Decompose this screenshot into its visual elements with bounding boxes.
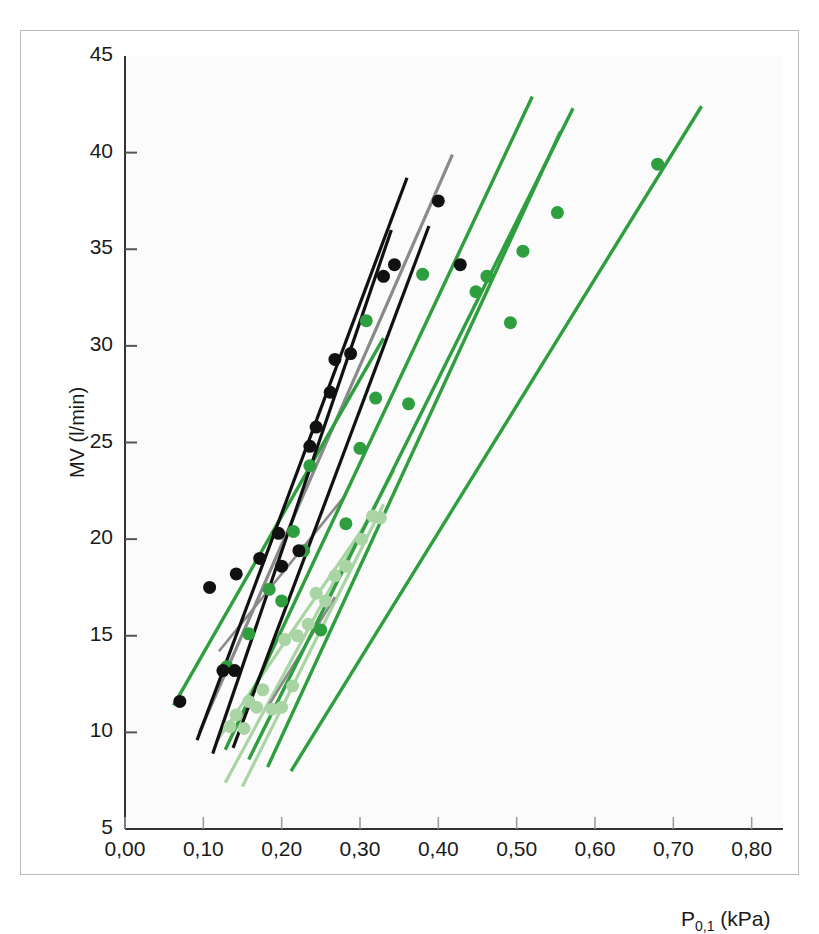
- data-point: [480, 270, 493, 283]
- data-point: [275, 594, 288, 607]
- data-point: [377, 270, 390, 283]
- data-point: [454, 258, 467, 271]
- y-tick-label: 5: [67, 815, 113, 839]
- data-point: [253, 552, 266, 565]
- data-point: [228, 664, 241, 677]
- x-tick-label: 0,00: [85, 837, 165, 861]
- data-point: [275, 701, 288, 714]
- data-point: [355, 533, 368, 546]
- x-tick-label: 0,50: [477, 837, 557, 861]
- data-point: [369, 392, 382, 405]
- data-point: [344, 347, 357, 360]
- data-point: [339, 517, 352, 530]
- x-tick-label: 0,10: [163, 837, 243, 861]
- data-point: [230, 708, 243, 721]
- data-point: [287, 525, 300, 538]
- data-point: [310, 421, 323, 434]
- data-point: [278, 633, 291, 646]
- data-point: [402, 397, 415, 410]
- data-point: [328, 569, 341, 582]
- y-tick-label: 45: [67, 42, 113, 66]
- data-point: [303, 459, 316, 472]
- y-tick-label: 15: [67, 622, 113, 646]
- x-tick-label: 0,60: [555, 837, 635, 861]
- data-point: [303, 440, 316, 453]
- y-tick-label: 40: [67, 139, 113, 163]
- plot-background: [125, 56, 783, 829]
- data-point: [263, 583, 276, 596]
- data-point: [360, 314, 373, 327]
- data-point: [291, 629, 304, 642]
- scatter-plot: [21, 31, 798, 874]
- data-point: [416, 268, 429, 281]
- y-tick-label: 35: [67, 235, 113, 259]
- x-tick-label: 0,70: [633, 837, 713, 861]
- data-point: [314, 623, 327, 636]
- data-point: [272, 527, 285, 540]
- data-point: [374, 511, 387, 524]
- x-tick-label: 0,20: [242, 837, 322, 861]
- data-point: [339, 560, 352, 573]
- data-point: [328, 353, 341, 366]
- data-point: [354, 442, 367, 455]
- x-axis-label-unit: (kPa): [714, 907, 770, 930]
- x-axis-label: P0,1 (kPa): [681, 907, 771, 934]
- data-point: [173, 695, 186, 708]
- data-point: [651, 158, 664, 171]
- data-point: [242, 627, 255, 640]
- data-point: [250, 701, 263, 714]
- data-point: [504, 316, 517, 329]
- data-point: [292, 544, 305, 557]
- data-point: [319, 594, 332, 607]
- data-point: [388, 258, 401, 271]
- x-axis-label-main: P: [681, 907, 695, 930]
- data-point: [551, 206, 564, 219]
- y-axis-label: MV (l/min): [66, 353, 89, 513]
- x-axis-label-sub: 0,1: [695, 918, 714, 934]
- data-point: [203, 581, 216, 594]
- data-point: [275, 560, 288, 573]
- chart-frame: 51015202530354045 0,000,100,200,300,400,…: [20, 30, 799, 875]
- data-point: [516, 245, 529, 258]
- data-point: [302, 618, 315, 631]
- x-tick-label: 0,80: [712, 837, 792, 861]
- y-tick-label: 10: [67, 718, 113, 742]
- data-point: [223, 720, 236, 733]
- data-point: [256, 683, 269, 696]
- data-point: [432, 194, 445, 207]
- data-point: [216, 664, 229, 677]
- data-point: [324, 386, 337, 399]
- data-point: [230, 567, 243, 580]
- data-point: [286, 679, 299, 692]
- y-tick-label: 20: [67, 525, 113, 549]
- x-tick-label: 0,30: [320, 837, 400, 861]
- data-point: [238, 722, 251, 735]
- data-point: [469, 285, 482, 298]
- x-tick-label: 0,40: [398, 837, 478, 861]
